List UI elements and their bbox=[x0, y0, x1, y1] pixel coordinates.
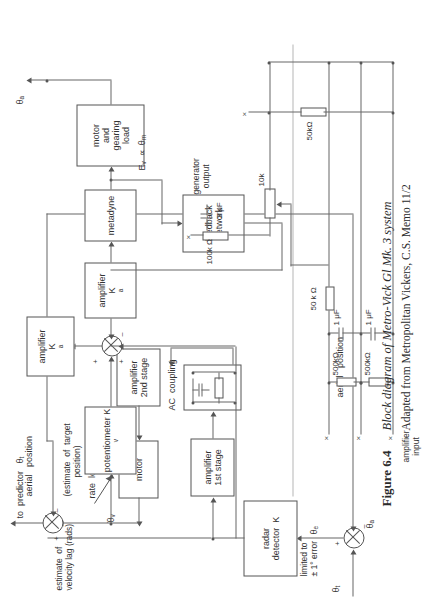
caption-title: Block diagram of Metro-Vick Gl Mk. 3 sys… bbox=[379, 201, 394, 430]
caption-figure-number: Figure 6.4 bbox=[378, 450, 394, 506]
caption-source: Adapted from Metropolitan Vickers, C.S. … bbox=[399, 184, 411, 430]
figure-page: θt + – θa aerial position θe radar detec… bbox=[0, 0, 425, 602]
